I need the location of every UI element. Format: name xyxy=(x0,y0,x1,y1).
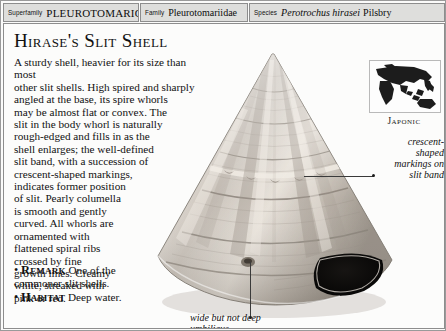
description-line: is smooth and gently xyxy=(14,205,138,217)
fact-remark: • Remark One of the commoner slit shells… xyxy=(14,264,164,290)
leader-dot-umbilicus xyxy=(249,316,252,319)
fact-keyword: Remark xyxy=(21,263,66,277)
description-line: may be almost flat or convex. The xyxy=(14,106,174,118)
fact-text: Deep water. xyxy=(65,291,121,303)
field-guide-page: Superfamily PLEUROTOMARIOIDEA Family Ple… xyxy=(0,0,446,331)
species-label: Species xyxy=(254,9,277,16)
taxonomy-cell-species: Species Perotrochus hirasei Pilsbry xyxy=(249,3,445,22)
description-line: curved. All whorls are xyxy=(14,217,138,229)
page-title: Hirase's Slit Shell xyxy=(14,30,168,52)
description-line: indicates former position xyxy=(14,180,154,192)
leader-line-slit-band xyxy=(304,176,374,177)
superfamily-label: Superfamily xyxy=(8,9,42,16)
superfamily-value: PLEUROTOMARIOIDEA xyxy=(46,7,139,19)
description-line: rough-edged and fills in as the xyxy=(14,130,174,142)
fact-list: • Remark One of the commoner slit shells… xyxy=(14,264,164,305)
taxonomy-cell-superfamily: Superfamily PLEUROTOMARIOIDEA xyxy=(3,3,139,22)
map-region-label: Japonic xyxy=(369,116,439,126)
bullet-icon: • xyxy=(14,290,18,304)
fact-habitat: • Habitat Deep water. xyxy=(14,291,164,304)
description-line: A sturdy shell, heavier for its size tha… xyxy=(14,56,196,81)
description-line: slit band, with a succession of xyxy=(14,155,154,167)
family-label: Family xyxy=(145,9,164,16)
annotation-slit-band: crescent-shaped markings on slit band xyxy=(380,136,444,180)
page-body: Hirase's Slit Shell A sturdy shell, heav… xyxy=(3,23,445,329)
description-line: slit in the body whorl is naturally xyxy=(14,118,174,130)
species-binomial: Perotrochus hirasei xyxy=(281,7,360,18)
description-line: crescent-shaped markings, xyxy=(14,168,154,180)
description-line: other slit shells. High spired and sharp… xyxy=(14,81,196,93)
leader-line-umbilicus xyxy=(250,262,251,318)
family-value: Pleurotomariidae xyxy=(168,7,237,18)
description-line: of slit. Pearly columella xyxy=(14,192,138,204)
taxonomy-header: Superfamily PLEUROTOMARIOIDEA Family Ple… xyxy=(3,3,445,22)
species-author: Pilsbry xyxy=(363,7,391,18)
distribution-map xyxy=(369,60,441,113)
description-line: angled at the base, its spire whorls xyxy=(14,93,174,105)
leader-dot-slit-band xyxy=(372,174,375,177)
fact-keyword: Habitat xyxy=(21,290,65,304)
description-line: ornamented with xyxy=(14,230,132,242)
description-line: flattened spiral ribs xyxy=(14,242,132,254)
taxonomy-cell-family: Family Pleurotomariidae xyxy=(140,3,248,22)
description-line: shell enlarges; the well-defined xyxy=(14,143,174,155)
bullet-icon: • xyxy=(14,263,18,277)
annotation-umbilicus: wide but not deep umbilicus xyxy=(190,312,298,329)
